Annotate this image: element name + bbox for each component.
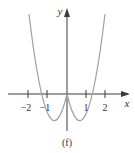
x-tick-label: −2 [21,102,32,113]
y-axis-label: y [57,5,63,17]
x-tick-label: −1 [40,102,51,113]
figure-caption: (f) [62,137,72,149]
x-axis-label: x [124,97,130,109]
x-tick-label: 1 [84,102,89,113]
x-tick-label: 2 [103,102,108,113]
parabola-chart: −2 −1 1 2 x y (f) [0,0,135,153]
y-axis-arrow-icon [64,8,70,17]
